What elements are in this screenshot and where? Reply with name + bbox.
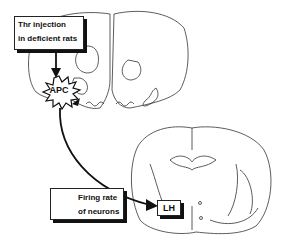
- lower-brain-section: [131, 127, 271, 234]
- effect-box: Firing rate of neurons: [50, 188, 124, 220]
- apc-label: APC: [46, 85, 72, 95]
- stimulus-box: Thr injection in deficient rats: [14, 16, 84, 50]
- lh-label: LH: [157, 200, 181, 216]
- stimulus-arrow: [51, 50, 61, 78]
- effect-line-1: Firing rate: [78, 191, 119, 205]
- effect-line-2: of neurons: [78, 205, 119, 219]
- stimulus-line-2: in deficient rats: [18, 32, 80, 46]
- effect-text: Firing rate of neurons: [78, 191, 119, 219]
- stimulus-line-1: Thr injection: [18, 18, 80, 32]
